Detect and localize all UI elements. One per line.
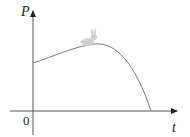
rabbit-icon: [81, 29, 98, 46]
population-graph: P 0 t: [0, 0, 190, 137]
origin-label: 0: [23, 114, 30, 127]
population-curve: [33, 44, 151, 111]
y-axis-label: P: [21, 5, 30, 19]
x-axis-label: t: [172, 121, 176, 135]
